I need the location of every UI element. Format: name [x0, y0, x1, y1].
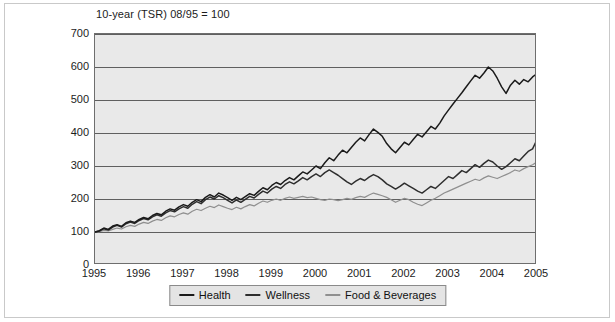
- plot-area: [94, 33, 536, 264]
- legend-entry[interactable]: Wellness: [246, 289, 310, 301]
- x-axis-tick-label: 1999: [259, 267, 283, 279]
- legend-label: Food & Beverages: [345, 289, 436, 301]
- y-axis-tick-label: 300: [71, 159, 89, 171]
- x-axis-tick-label: 1995: [82, 267, 106, 279]
- y-axis-tick-label: 200: [71, 192, 89, 204]
- series-line: [95, 140, 536, 232]
- y-axis-tick-label: 600: [71, 60, 89, 72]
- legend-entry[interactable]: Food & Beverages: [325, 289, 436, 301]
- x-axis-tick-label: 2005: [524, 267, 548, 279]
- plot-wrapper: 0100200300400500600700 19951996199719981…: [94, 33, 536, 264]
- chart-legend: HealthWellnessFood & Beverages: [169, 285, 446, 306]
- x-axis-tick-label: 1997: [170, 267, 194, 279]
- legend-label: Wellness: [266, 289, 310, 301]
- legend-line-icon: [246, 294, 261, 296]
- legend-line-icon: [325, 294, 340, 296]
- y-axis-tick-label: 700: [71, 27, 89, 39]
- chart-title: 10-year (TSR) 08/95 = 100: [96, 8, 230, 20]
- chart-figure: 10-year (TSR) 08/95 = 100 01002003004005…: [0, 0, 615, 322]
- x-axis-tick-label: 1996: [126, 267, 150, 279]
- legend-label: Health: [199, 289, 231, 301]
- x-axis-tick-label: 2001: [347, 267, 371, 279]
- y-axis-tick-label: 100: [71, 225, 89, 237]
- y-axis-tick-label: 400: [71, 126, 89, 138]
- x-axis-tick-label: 1998: [214, 267, 238, 279]
- x-axis-tick-label: 2003: [435, 267, 459, 279]
- x-axis-tick-label: 2002: [391, 267, 415, 279]
- x-axis-tick-label: 2004: [480, 267, 504, 279]
- x-axis-tick-label: 2000: [303, 267, 327, 279]
- legend-entry[interactable]: Health: [179, 289, 231, 301]
- series-line: [95, 162, 536, 232]
- y-axis-tick-label: 500: [71, 93, 89, 105]
- series-line: [95, 67, 536, 232]
- plot-svg: [95, 34, 536, 264]
- legend-line-icon: [179, 294, 194, 296]
